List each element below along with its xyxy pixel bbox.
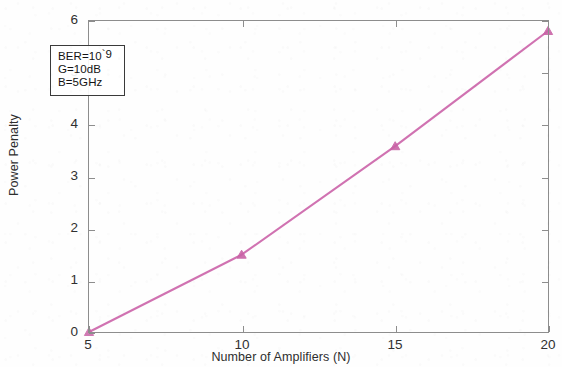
annotation-ber-exponent: `9 (102, 48, 112, 60)
y-tick-6 (89, 21, 95, 22)
y-tick-2 (89, 230, 95, 231)
y-tick-4 (89, 125, 95, 126)
parameter-annotation-box: BER=10`9 G=10dB B=5GHz (50, 45, 125, 96)
x-tick-5 (89, 326, 90, 332)
y-tick-4-right (542, 125, 548, 126)
annotation-line-ber: BER=10`9 (58, 50, 118, 63)
annotation-line-bandwidth: B=5GHz (58, 76, 118, 89)
y-tick-label-3: 3 (52, 169, 78, 183)
y-tick-label-0: 0 (52, 325, 78, 339)
y-axis-title: Power Penalty (7, 95, 21, 215)
y-tick-3-right (542, 178, 548, 179)
annotation-line-gain: G=10dB (58, 63, 118, 76)
plot-frame (88, 20, 549, 333)
figure-canvas: 6 5 4 3 2 1 0 5 10 15 20 Number of Ampli… (0, 0, 562, 367)
annotation-ber-prefix: BER=10 (58, 50, 102, 62)
x-axis-title: Number of Amplifiers (N) (0, 350, 562, 364)
y-tick-3 (89, 178, 95, 179)
y-tick-label-2: 2 (52, 221, 78, 235)
y-tick-label-6: 6 (52, 13, 78, 27)
x-tick-15-top (396, 21, 397, 27)
y-tick-label-4: 4 (52, 117, 78, 131)
y-tick-1-right (542, 282, 548, 283)
x-tick-15 (396, 326, 397, 332)
y-tick-0 (89, 333, 95, 334)
x-tick-20 (549, 326, 550, 332)
y-tick-label-1: 1 (52, 273, 78, 287)
y-tick-5-right (542, 73, 548, 74)
y-tick-2-right (542, 230, 548, 231)
y-tick-6-right (542, 21, 548, 22)
x-tick-10 (243, 326, 244, 332)
x-tick-10-top (243, 21, 244, 27)
y-tick-1 (89, 282, 95, 283)
